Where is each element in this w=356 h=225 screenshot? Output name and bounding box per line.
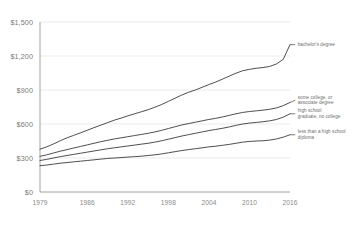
y-tick-label: $1,500	[10, 18, 33, 27]
y-tick-label: $0	[25, 188, 33, 197]
series-label: bachelor's degree	[298, 42, 336, 47]
series-leader-lines	[290, 45, 295, 135]
series-label: associate degree	[298, 100, 334, 105]
x-tick-label: 1998	[161, 199, 176, 206]
y-tick-label: $1,200	[10, 52, 33, 61]
gridlines-group	[40, 22, 290, 158]
series-label: graduate, no college	[298, 114, 341, 119]
y-tick-label: $600	[17, 120, 33, 129]
earnings-by-education-line-chart: $0$300$600$900$1,200$1,500 1979198619921…	[0, 0, 356, 225]
series-line	[40, 135, 290, 166]
x-tick-label: 2016	[282, 199, 297, 206]
series-inline-labels: bachelor's degreesome college, orassocia…	[298, 42, 346, 139]
series-line	[40, 45, 290, 149]
x-tick-label: 2010	[242, 199, 257, 206]
y-tick-label: $900	[17, 86, 33, 95]
series-label: diploma	[298, 135, 315, 140]
x-tick-label: 1986	[80, 199, 95, 206]
series-lines-group	[40, 45, 290, 166]
x-tick-label: 1979	[32, 199, 47, 206]
y-tick-label: $300	[17, 154, 33, 163]
y-axis-tick-labels: $0$300$600$900$1,200$1,500	[10, 18, 33, 197]
leader-line	[290, 100, 295, 102]
chart-canvas: $0$300$600$900$1,200$1,500 1979198619921…	[0, 0, 356, 225]
x-tick-label: 1992	[120, 199, 135, 206]
x-tick-label: 2004	[201, 199, 216, 206]
x-axis-tick-labels: 1979198619921998200420102016	[32, 199, 297, 206]
series-line	[40, 102, 290, 156]
